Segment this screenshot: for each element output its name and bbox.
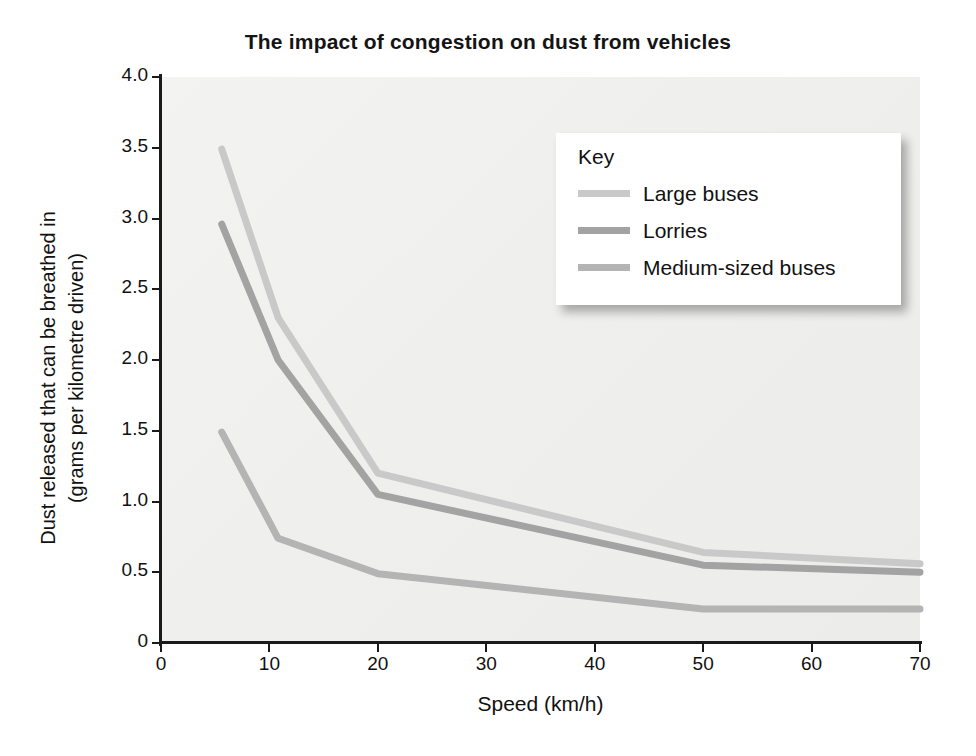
legend-item-label: Large buses: [643, 182, 759, 206]
data-lines: [0, 0, 976, 756]
legend-title: Key: [578, 145, 901, 169]
chart-canvas: The impact of congestion on dust from ve…: [0, 0, 976, 756]
legend-color-swatch: [578, 264, 630, 271]
legend-item-label: Medium-sized buses: [643, 256, 836, 280]
legend-item[interactable]: Lorries: [578, 212, 901, 249]
legend-item-label: Lorries: [643, 219, 707, 243]
legend-item[interactable]: Large buses: [578, 175, 901, 212]
legend-color-swatch: [578, 227, 630, 234]
legend-box: Key Large busesLorriesMedium-sized buses: [556, 133, 901, 305]
legend-color-swatch: [578, 190, 630, 197]
legend-item[interactable]: Medium-sized buses: [578, 249, 901, 286]
legend-entries: Large busesLorriesMedium-sized buses: [578, 175, 901, 286]
